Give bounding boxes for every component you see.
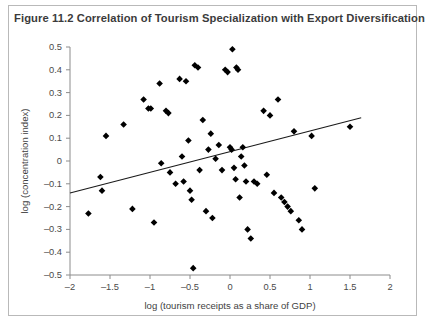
data-point-marker <box>231 165 238 172</box>
y-tick-label: 0 <box>40 156 62 166</box>
data-point-marker <box>243 178 250 185</box>
data-point-marker <box>185 137 192 144</box>
data-point-marker <box>296 217 303 224</box>
y-tick-label: 0.3 <box>40 88 62 98</box>
data-point-marker <box>248 235 255 242</box>
scatter-chart: –2–1.5–1–0.500.511.52 –0.5–0.4–0.3–0.2–0… <box>0 0 427 324</box>
y-axis-ticks <box>66 47 70 275</box>
x-axis-title: log (tourism receipts as a share of GDP) <box>144 300 315 311</box>
data-point-marker <box>275 96 282 103</box>
data-point-marker <box>241 162 248 169</box>
y-tick-label: –0.2 <box>40 202 62 212</box>
x-tick-label: –1.5 <box>101 282 119 292</box>
data-point-marker <box>240 144 247 151</box>
x-tick-label: –1 <box>145 282 155 292</box>
data-point-marker <box>200 117 207 124</box>
data-point-marker <box>156 80 163 87</box>
x-tick-label: –0.5 <box>181 282 199 292</box>
data-point-marker <box>99 187 106 194</box>
data-point-marker <box>216 142 223 149</box>
y-tick-label: –0.5 <box>40 270 62 280</box>
x-tick-label: 2 <box>387 282 392 292</box>
regression-line <box>70 118 361 193</box>
data-point-marker <box>203 208 210 215</box>
y-tick-label: 0.5 <box>40 42 62 52</box>
plot-canvas <box>0 0 427 324</box>
y-tick-label: 0.4 <box>40 65 62 75</box>
data-point-marker <box>180 178 187 185</box>
data-point-marker <box>264 171 271 178</box>
data-point-marker <box>308 133 315 140</box>
data-point-marker <box>183 78 190 85</box>
data-point-marker <box>167 169 174 176</box>
axis-lines <box>70 47 390 275</box>
data-point-marker <box>151 219 158 226</box>
data-point-marker <box>188 196 195 203</box>
y-tick-label: 0.1 <box>40 133 62 143</box>
data-point-marker <box>85 210 92 217</box>
data-point-marker <box>219 167 226 174</box>
x-axis-ticks <box>70 275 390 279</box>
data-point-marker <box>229 46 236 53</box>
data-point-marker <box>244 226 251 233</box>
x-tick-label: –2 <box>65 282 75 292</box>
y-tick-label: –0.1 <box>40 179 62 189</box>
data-point-marker <box>291 128 298 135</box>
data-point-marker <box>190 265 197 272</box>
y-axis-title: log (concentration index) <box>19 108 30 213</box>
data-point-marker <box>209 215 216 222</box>
data-point-marker <box>236 194 243 201</box>
y-tick-label: –0.3 <box>40 224 62 234</box>
data-point-marker <box>103 133 110 140</box>
trend-line <box>70 118 361 193</box>
data-point-marker <box>158 160 165 167</box>
data-point-marker <box>120 121 127 128</box>
data-point-marker <box>267 112 274 119</box>
data-point-marker <box>176 76 183 83</box>
data-points <box>85 46 353 271</box>
data-point-marker <box>260 108 267 115</box>
data-point-marker <box>205 146 212 153</box>
data-point-marker <box>97 174 104 181</box>
y-tick-label: 0.2 <box>40 110 62 120</box>
data-point-marker <box>172 181 179 188</box>
data-point-marker <box>140 96 147 103</box>
data-point-marker <box>271 190 278 197</box>
data-point-marker <box>187 187 194 194</box>
data-point-marker <box>347 124 354 131</box>
data-point-marker <box>196 167 203 174</box>
data-point-marker <box>129 206 136 213</box>
x-tick-label: 1 <box>307 282 312 292</box>
x-tick-label: 0.5 <box>264 282 277 292</box>
data-point-marker <box>238 153 245 160</box>
data-point-marker <box>208 130 215 137</box>
data-point-marker <box>299 226 306 233</box>
x-tick-label: 1.5 <box>344 282 357 292</box>
data-point-marker <box>232 176 239 183</box>
data-point-marker <box>312 185 319 192</box>
x-tick-label: 0 <box>227 282 232 292</box>
y-tick-label: –0.4 <box>40 247 62 257</box>
data-point-marker <box>179 153 186 160</box>
